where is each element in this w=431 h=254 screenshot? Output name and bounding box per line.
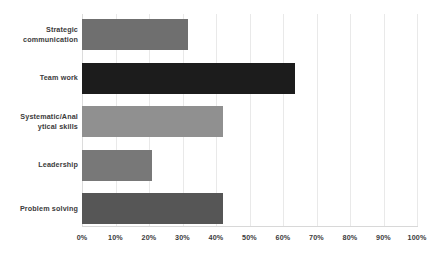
gridline-60pct: [283, 14, 284, 226]
bar: [82, 150, 152, 181]
category-label-line: Leadership: [0, 160, 78, 170]
category-label-line: Problem solving: [0, 204, 78, 214]
gridline-50pct: [250, 14, 251, 226]
x-tick-label: 100%: [397, 233, 431, 242]
category-label: Team work: [0, 73, 78, 83]
category-label-line: Strategic: [0, 25, 78, 35]
gridline-90pct: [384, 14, 385, 226]
x-axis-line: [82, 226, 418, 227]
gridline-100pct: [417, 14, 418, 226]
bar: [82, 63, 295, 94]
gridline-70pct: [317, 14, 318, 226]
category-label-line: Systematic/Anal: [0, 112, 78, 122]
gridline-80pct: [350, 14, 351, 226]
category-label: Leadership: [0, 160, 78, 170]
category-label-line: Team work: [0, 73, 78, 83]
bar: [82, 193, 223, 224]
category-label-line: ytical skills: [0, 122, 78, 132]
bar: [82, 106, 223, 137]
category-label: Strategiccommunication: [0, 25, 78, 44]
category-label-line: communication: [0, 35, 78, 45]
category-label: Problem solving: [0, 204, 78, 214]
plot-area: [82, 14, 417, 226]
bar: [82, 19, 188, 50]
category-label: Systematic/Analytical skills: [0, 112, 78, 131]
